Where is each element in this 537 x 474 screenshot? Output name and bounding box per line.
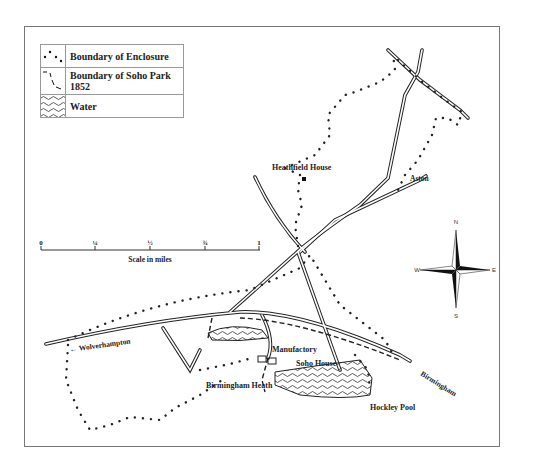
compass-n: N	[454, 219, 458, 225]
label-birmingham-heath: Birmingham Heath	[206, 381, 273, 390]
scale-tick-0: 0	[39, 239, 43, 247]
map-legend: Boundary of Enclosure Boundary of Soho P…	[40, 44, 184, 118]
dashed-boundary-icon	[41, 68, 66, 95]
label-hockley-pool: Hockley Pool	[370, 403, 416, 412]
legend-label: Water	[66, 95, 184, 118]
legend-row-enclosure: Boundary of Enclosure	[41, 45, 184, 68]
compass-s: S	[454, 313, 458, 319]
label-manufactory: Manufactory	[272, 345, 317, 354]
scale-tick-1: 1	[257, 239, 261, 247]
compass-rose	[420, 230, 490, 308]
label-heathfield-house: Heathfield House	[272, 163, 332, 172]
upper-pool	[208, 327, 268, 341]
legend-label: Boundary of Soho Park 1852	[66, 68, 184, 95]
label-soho-house: Soho House	[296, 359, 337, 368]
label-wolverhampton: ← Wolverhampton	[69, 336, 132, 354]
legend-label: Boundary of Enclosure	[66, 45, 184, 68]
legend-row-soho-park: Boundary of Soho Park 1852	[41, 68, 184, 95]
scale-tick-half: ½	[147, 239, 152, 247]
scale-tick-three-quarter: ¾	[202, 239, 207, 247]
water-waves-icon	[41, 95, 66, 118]
scale-label: Scale in miles	[128, 255, 171, 264]
legend-row-water: Water	[41, 95, 184, 118]
label-aston: Aston	[410, 174, 430, 183]
label-birmingham: Birmingham	[419, 369, 459, 399]
compass-w: W	[414, 267, 420, 273]
heathfield-house-marker	[302, 177, 306, 181]
scale-tick-quarter: ¼	[92, 239, 97, 247]
compass-e: E	[492, 267, 496, 273]
dotted-boundary-icon	[41, 45, 66, 68]
